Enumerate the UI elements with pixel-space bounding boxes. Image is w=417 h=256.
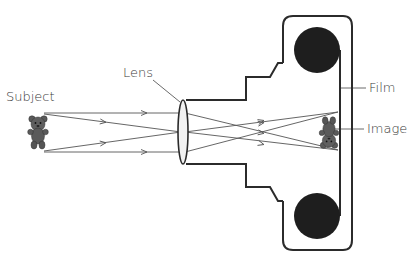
image-label: Image	[367, 121, 407, 136]
lens-label: Lens	[123, 65, 153, 80]
film-label: Film	[369, 80, 395, 95]
lens-leader-line	[153, 80, 180, 102]
camera-diagram: Subject Lens Film Image	[0, 0, 417, 256]
subject-label: Subject	[6, 89, 55, 104]
lens-icon	[178, 100, 188, 164]
bottom-film-reel	[294, 193, 340, 239]
image-bear-icon	[319, 117, 339, 149]
lens-barrel-top	[186, 63, 283, 100]
top-film-reel	[294, 27, 340, 73]
subject-bear-icon	[28, 116, 49, 149]
lens-barrel-bottom	[186, 164, 283, 201]
light-rays	[44, 111, 338, 155]
